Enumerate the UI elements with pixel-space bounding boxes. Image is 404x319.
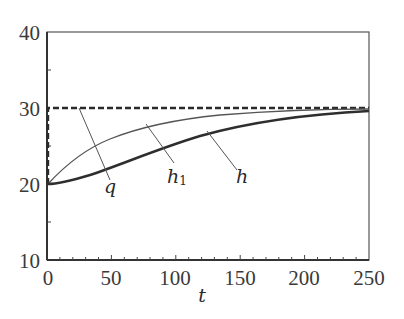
y-tick-label-30: 30 [19, 97, 40, 121]
label-q: q [104, 175, 116, 197]
label-h1-main: h [167, 165, 179, 187]
x-tick-label-200: 200 [288, 266, 320, 290]
leader-line-h [207, 131, 237, 170]
x-tick-label-150: 150 [224, 266, 256, 290]
x-tick-label-0: 0 [43, 266, 54, 290]
x-tick-label-250: 250 [353, 266, 385, 290]
y-tick-label-40: 40 [19, 21, 40, 45]
y-tick-label-20: 20 [19, 173, 40, 197]
label-h: h [236, 165, 248, 187]
leader-line-h1 [146, 124, 174, 163]
label-h1: h1 [167, 165, 187, 188]
x-tick-label-100: 100 [159, 266, 191, 290]
label-h1-sub: 1 [179, 174, 187, 188]
x-tick-label-50: 50 [101, 266, 122, 290]
leader-line-q [79, 108, 110, 180]
chart: 40 30 20 10 0 50 100 150 200 250 t q h1 … [0, 0, 404, 319]
y-tick-label-10: 10 [19, 249, 40, 273]
x-axis-label: t [198, 284, 206, 306]
